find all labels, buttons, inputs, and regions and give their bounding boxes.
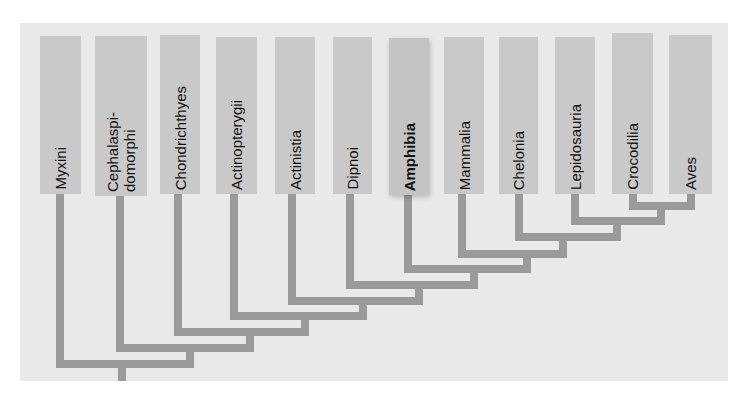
branch-myxini xyxy=(60,194,190,364)
taxon-label: Cephalaspi- domorphi xyxy=(104,112,138,196)
taxon-label: Dipnoi xyxy=(344,147,361,194)
taxon-label: Lepidosauria xyxy=(567,104,584,194)
taxon-dipnoi: Dipnoi xyxy=(333,37,372,194)
branch-amphibia xyxy=(408,196,527,269)
taxon-myxini: Myxini xyxy=(40,36,81,194)
taxon-chondrichthyes: Chondrichthyes xyxy=(160,35,200,194)
taxon-label: Chelonia xyxy=(510,131,527,194)
taxon-actinopterygii: Actinopterygii xyxy=(216,37,257,194)
branch-chondrichthyes xyxy=(178,194,305,332)
taxon-crocodilia: Crocodilia xyxy=(612,33,653,194)
taxon-chelonia: Chelonia xyxy=(499,37,538,194)
taxon-mammalia: Mammalia xyxy=(444,37,484,194)
taxon-actinistia: Actinistia xyxy=(275,37,315,194)
taxon-label: Chondrichthyes xyxy=(172,86,189,194)
taxon-cephalaspidomorphi: Cephalaspi- domorphi xyxy=(95,36,147,196)
taxon-label: Amphibia xyxy=(401,123,418,195)
taxon-label: Actinistia xyxy=(287,130,304,194)
taxon-label: Myxini xyxy=(52,147,69,194)
taxon-amphibia-highlighted: Amphibia xyxy=(389,38,429,195)
taxon-lepidosauria: Lepidosauria xyxy=(555,37,595,194)
taxon-label: Actinopterygii xyxy=(228,100,245,194)
branch-chelonia xyxy=(519,194,617,237)
taxon-label: Aves xyxy=(682,157,699,194)
taxon-label: Mammalia xyxy=(456,121,473,194)
branch-mammalia xyxy=(462,194,563,254)
taxon-aves: Aves xyxy=(669,35,712,194)
taxon-label: Crocodilia xyxy=(624,123,641,194)
